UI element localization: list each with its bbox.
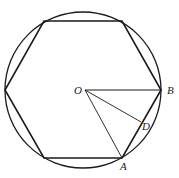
label-a: A [119, 160, 127, 172]
label-o: O [74, 84, 82, 96]
label-d: D [141, 120, 150, 132]
label-b: B [167, 84, 174, 96]
hexagon-circle-diagram: O B A D [0, 0, 179, 178]
diagram-canvas: O B A D [0, 0, 179, 178]
